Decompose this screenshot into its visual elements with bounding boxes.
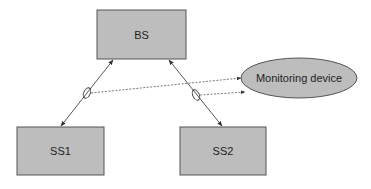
node-ss1: SS1 — [17, 127, 104, 175]
network-monitoring-diagram: BS SS1 SS2 Monitoring device — [0, 0, 371, 189]
monitor-line-ss1-link — [91, 78, 241, 93]
node-bs-label: BS — [134, 29, 149, 41]
node-monitoring-device-label: Monitoring device — [256, 72, 342, 84]
monitor-line-ss2-link — [200, 92, 245, 95]
node-ss2-label: SS2 — [213, 145, 234, 157]
tap-icon-ss2-link — [191, 89, 201, 102]
node-monitoring-device: Monitoring device — [241, 58, 357, 98]
node-ss2: SS2 — [180, 127, 266, 175]
node-bs: BS — [97, 10, 186, 59]
node-ss1-label: SS1 — [50, 145, 71, 157]
